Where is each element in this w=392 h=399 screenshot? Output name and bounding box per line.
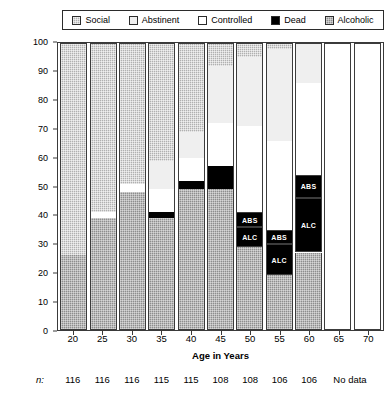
- bar-segment-dead: [207, 166, 234, 189]
- bar-column-age-55[interactable]: ABSALC: [266, 43, 293, 330]
- bar-segment-social: [148, 43, 175, 161]
- sample-size-cell: 106: [266, 374, 293, 388]
- plot-area: ABSALCABSALCABSALC: [57, 42, 384, 331]
- bar-segment-dead: ABS: [236, 212, 263, 226]
- bar-segment-empty: [324, 43, 351, 330]
- y-tick-label: 50: [2, 182, 48, 192]
- x-tick-label: 30: [118, 333, 145, 349]
- bar-segment-abstinent: [148, 161, 175, 190]
- y-tick-mark: [53, 244, 57, 245]
- x-tick-label: 50: [236, 333, 263, 349]
- y-tick-mark: [53, 302, 57, 303]
- legend-swatch-dead-icon: [271, 16, 280, 25]
- sample-size-cell: 108: [236, 374, 263, 388]
- bar-segment-inline-label: ALC: [267, 256, 292, 263]
- x-axis-title: Age in Years: [57, 350, 384, 361]
- bar-segment-controlled: [266, 141, 293, 230]
- legend-swatch-social-icon: [72, 16, 81, 25]
- legend-swatch-abstinent-icon: [129, 16, 138, 25]
- bar-segment-abstinent: [295, 43, 322, 83]
- bar-segment-controlled: [236, 126, 263, 212]
- bar-segment-social: [236, 43, 263, 57]
- bar-segment-inline-label: ABS: [296, 183, 321, 190]
- no-data-note: No data: [316, 374, 384, 385]
- bar-segment-inline-label: ABS: [237, 216, 262, 223]
- legend-swatch-alcoholic-icon: [325, 16, 334, 25]
- bar-segment-controlled: [207, 123, 234, 166]
- y-tick-label: 20: [2, 268, 48, 278]
- bar-segment-social: [60, 43, 87, 255]
- y-tick-label: 0: [2, 326, 48, 336]
- bar-group: ABSALCABSALCABSALC: [58, 43, 383, 330]
- bar-segment-abstinent: [236, 57, 263, 126]
- sample-size-cell: 115: [148, 374, 175, 388]
- bar-column-age-35[interactable]: [148, 43, 175, 330]
- bar-segment-dead: ALC: [266, 244, 293, 276]
- bar-segment-alcoholic: [148, 218, 175, 330]
- bar-column-age-50[interactable]: ABSALC: [236, 43, 263, 330]
- sample-size-prefix: n:: [36, 374, 44, 385]
- x-tick-label: 35: [148, 333, 175, 349]
- y-tick-label: 100: [2, 37, 48, 47]
- sample-size-cell: 115: [177, 374, 204, 388]
- bar-column-age-25[interactable]: [90, 43, 117, 330]
- legend-item-social: Social: [72, 16, 110, 25]
- y-tick-mark: [53, 70, 57, 71]
- bar-segment-alcoholic: [60, 255, 87, 330]
- y-tick-mark: [53, 99, 57, 100]
- bar-segment-dead: ALC: [295, 198, 322, 253]
- bar-segment-alcoholic: [207, 189, 234, 330]
- bar-segment-alcoholic: [90, 218, 117, 330]
- bar-segment-inline-label: ALC: [296, 222, 321, 229]
- bar-segment-controlled: [148, 189, 175, 212]
- legend-item-controlled: Controlled: [198, 16, 252, 25]
- bar-segment-alcoholic: [178, 189, 205, 330]
- legend-swatch-controlled-icon: [198, 16, 207, 25]
- y-tick-mark: [53, 186, 57, 187]
- bar-column-age-45[interactable]: [207, 43, 234, 330]
- bar-segment-alcoholic: [236, 247, 263, 330]
- legend-label: Social: [85, 16, 110, 25]
- y-tick-label: 40: [2, 210, 48, 220]
- bar-segment-alcoholic: [266, 275, 293, 330]
- bar-segment-empty: [354, 43, 381, 330]
- bar-segment-alcoholic: [119, 192, 146, 330]
- y-tick-mark: [53, 128, 57, 129]
- bar-column-age-30[interactable]: [119, 43, 146, 330]
- bar-segment-alcoholic: [295, 253, 322, 330]
- legend-label: Alcoholic: [338, 16, 374, 25]
- bar-segment-social: [178, 43, 205, 132]
- bar-segment-dead: ABS: [295, 175, 322, 198]
- bar-segment-social: [90, 43, 117, 212]
- y-tick-mark: [53, 215, 57, 216]
- bar-segment-social: [119, 43, 146, 184]
- bar-segment-controlled: [178, 158, 205, 181]
- legend-label: Controlled: [211, 16, 252, 25]
- legend-item-dead: Dead: [271, 16, 306, 25]
- y-tick-label: 90: [2, 66, 48, 76]
- bar-column-age-20[interactable]: [60, 43, 87, 330]
- bar-segment-inline-label: ABS: [267, 233, 292, 240]
- bar-segment-dead: ALC: [236, 227, 263, 247]
- x-tick-label: 60: [296, 333, 323, 349]
- bar-segment-dead: [178, 181, 205, 190]
- x-tick-label: 40: [177, 333, 204, 349]
- bar-segment-inline-label: ALC: [237, 233, 262, 240]
- bar-column-age-65[interactable]: [324, 43, 351, 330]
- x-tick-label: 45: [207, 333, 234, 349]
- x-tick-label: 55: [266, 333, 293, 349]
- y-tick-mark: [53, 331, 57, 332]
- x-tick-label: 25: [89, 333, 116, 349]
- sample-size-cell: 116: [59, 374, 86, 388]
- y-tick-mark: [53, 42, 57, 43]
- y-tick-label: 80: [2, 95, 48, 105]
- y-tick-mark: [53, 273, 57, 274]
- y-tick-label: 30: [2, 239, 48, 249]
- y-tick-label: 70: [2, 124, 48, 134]
- bar-column-age-40[interactable]: [178, 43, 205, 330]
- bar-segment-dead: ABS: [266, 230, 293, 244]
- bar-column-age-60[interactable]: ABSALC: [295, 43, 322, 330]
- sample-size-cell: 116: [89, 374, 116, 388]
- legend-item-abstinent: Abstinent: [129, 16, 180, 25]
- bar-column-age-70[interactable]: [354, 43, 381, 330]
